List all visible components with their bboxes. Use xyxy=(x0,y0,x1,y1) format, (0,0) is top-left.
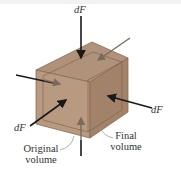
label-force-left: dF xyxy=(14,122,26,133)
label-force-right: dF xyxy=(151,104,163,115)
label-final-volume: Final volume xyxy=(108,130,144,152)
original-volume-leader xyxy=(60,136,74,150)
original-cube xyxy=(36,42,128,138)
label-force-top: dF xyxy=(74,4,86,15)
label-original-volume: Original volume xyxy=(20,143,62,165)
